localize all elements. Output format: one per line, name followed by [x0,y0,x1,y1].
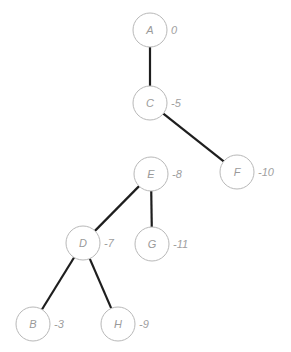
node-b: B-3 [16,307,65,341]
node-label: B [29,318,36,330]
node-a: A0 [133,13,178,47]
node-value: -7 [104,237,115,249]
node-g: G-11 [135,227,188,261]
node-label: C [146,97,154,109]
node-value: 0 [171,24,178,36]
edges-layer [42,47,224,310]
node-c: C-5 [133,86,182,120]
node-label: A [145,24,153,36]
node-h: H-9 [101,307,149,341]
node-label: D [79,237,87,249]
node-f: F-10 [220,155,275,189]
tree-diagram: A0C-5F-10E-8D-7G-11B-3H-9 [0,0,291,352]
node-label: G [148,238,157,250]
node-value: -10 [258,166,275,178]
edge-e-d [95,186,139,231]
node-value: -3 [54,318,65,330]
edge-c-f [163,114,223,162]
edge-d-b [42,257,74,309]
edge-e-g [151,191,152,227]
node-label: H [114,318,122,330]
node-value: -8 [172,168,183,180]
node-value: -5 [171,97,182,109]
nodes-layer: A0C-5F-10E-8D-7G-11B-3H-9 [16,13,275,341]
node-label: E [147,168,155,180]
node-e: E-8 [134,157,183,191]
node-value: -11 [173,238,188,250]
node-d: D-7 [66,226,115,260]
edge-d-h [90,259,112,309]
node-value: -9 [139,318,149,330]
